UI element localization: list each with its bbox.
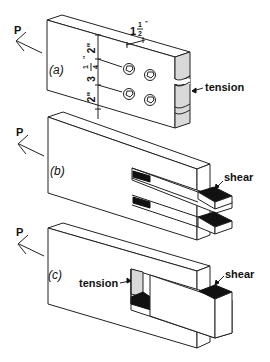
bolt-icon <box>145 95 156 106</box>
panel-label-b: (b) <box>50 164 65 178</box>
failure-label-tension-a: tension <box>205 81 244 93</box>
dim-spacing-whole: 3 <box>86 76 97 82</box>
force-label: P <box>14 24 21 36</box>
dim-end-den: 2 <box>138 30 142 37</box>
panel-label-c: (c) <box>48 268 62 282</box>
force-label: P <box>16 126 23 138</box>
plate-a-end <box>175 52 190 128</box>
panel-a: P (a) 2" 3 1 4 " 2" <box>14 15 244 128</box>
dim-spacing-num: 1 <box>82 65 89 69</box>
bolt-icon <box>124 89 135 100</box>
bolt-icon <box>145 70 156 81</box>
panel-label-a: (a) <box>49 63 64 77</box>
dim-end-num: 1 <box>138 21 142 28</box>
dim-spacing-unit: " <box>82 56 89 59</box>
dim-spacing-den: 4 <box>92 65 99 69</box>
dim-end-unit: " <box>145 20 148 26</box>
panel-c: P (c) tension shear <box>16 223 255 348</box>
force-arrow-icon <box>18 135 44 156</box>
force-label: P <box>16 226 23 238</box>
failure-label-tension-c: tension <box>79 277 118 289</box>
failure-label-shear-b: shear <box>224 171 254 183</box>
failure-label-shear-c: shear <box>225 268 255 280</box>
dim-edge-bottom: 2" <box>86 92 97 103</box>
dim-edge-top: 2" <box>86 43 97 54</box>
bolt-icon <box>124 64 135 75</box>
panel-b: P (b) shear <box>16 112 254 240</box>
force-arrow-icon <box>18 235 44 256</box>
connection-failure-diagram: P (a) 2" 3 1 4 " 2" <box>0 0 270 362</box>
dim-end-whole: 1 <box>130 25 136 37</box>
